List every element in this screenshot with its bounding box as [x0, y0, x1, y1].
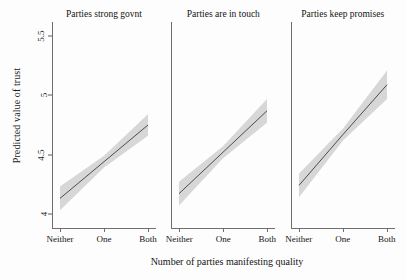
y-tick-label: 5.5	[35, 31, 46, 41]
x-tick-mark	[387, 228, 388, 232]
panel-title: Parties strong govnt	[52, 8, 156, 20]
x-tick-mark	[299, 228, 300, 232]
x-tick-mark	[223, 228, 224, 232]
y-axis-ticks: 44.555.5	[26, 0, 48, 280]
x-axis-title: Number of parties manifesting quality	[48, 256, 406, 267]
confidence-band	[60, 114, 148, 210]
chart-figure: Predicted value of trust 44.555.5 Partie…	[0, 0, 406, 280]
x-tick-mark	[104, 228, 105, 232]
x-tick-mark	[343, 228, 344, 232]
x-tick-label: Neither	[285, 234, 312, 244]
chart-panel: Parties keep promisesNeitherOneBoth	[291, 8, 395, 258]
plot-area	[171, 22, 275, 228]
x-tick-label: One	[335, 234, 350, 244]
x-tick-label: One	[216, 234, 231, 244]
y-axis-title-text: Predicted value of trust	[12, 67, 23, 162]
x-tick-label: Neither	[166, 234, 193, 244]
y-tick-label: 4	[42, 209, 47, 219]
chart-panel: Parties strong govntNeitherOneBoth	[52, 8, 156, 258]
chart-panel: Parties are in touchNeitherOneBoth	[171, 8, 275, 258]
y-tick-label: 4.5	[35, 150, 46, 160]
y-tick-label: 5	[42, 90, 47, 100]
x-tick-mark	[267, 228, 268, 232]
x-tick-label: Both	[139, 234, 157, 244]
plot-area	[52, 22, 156, 228]
panel-title: Parties are in touch	[171, 8, 275, 20]
panel-title: Parties keep promises	[291, 8, 395, 20]
x-tick-label: Both	[378, 234, 396, 244]
prediction-line	[179, 111, 267, 194]
x-tick-mark	[60, 228, 61, 232]
panel-row: Parties strong govntNeitherOneBothPartie…	[48, 8, 406, 258]
prediction-line	[299, 85, 387, 186]
x-tick-label: Neither	[47, 234, 74, 244]
plot-area	[291, 22, 395, 228]
x-tick-mark	[148, 228, 149, 232]
prediction-line	[60, 125, 148, 198]
x-tick-label: One	[97, 234, 112, 244]
y-axis-title: Predicted value of trust	[8, 0, 26, 230]
x-tick-label: Both	[259, 234, 277, 244]
x-tick-mark	[179, 228, 180, 232]
